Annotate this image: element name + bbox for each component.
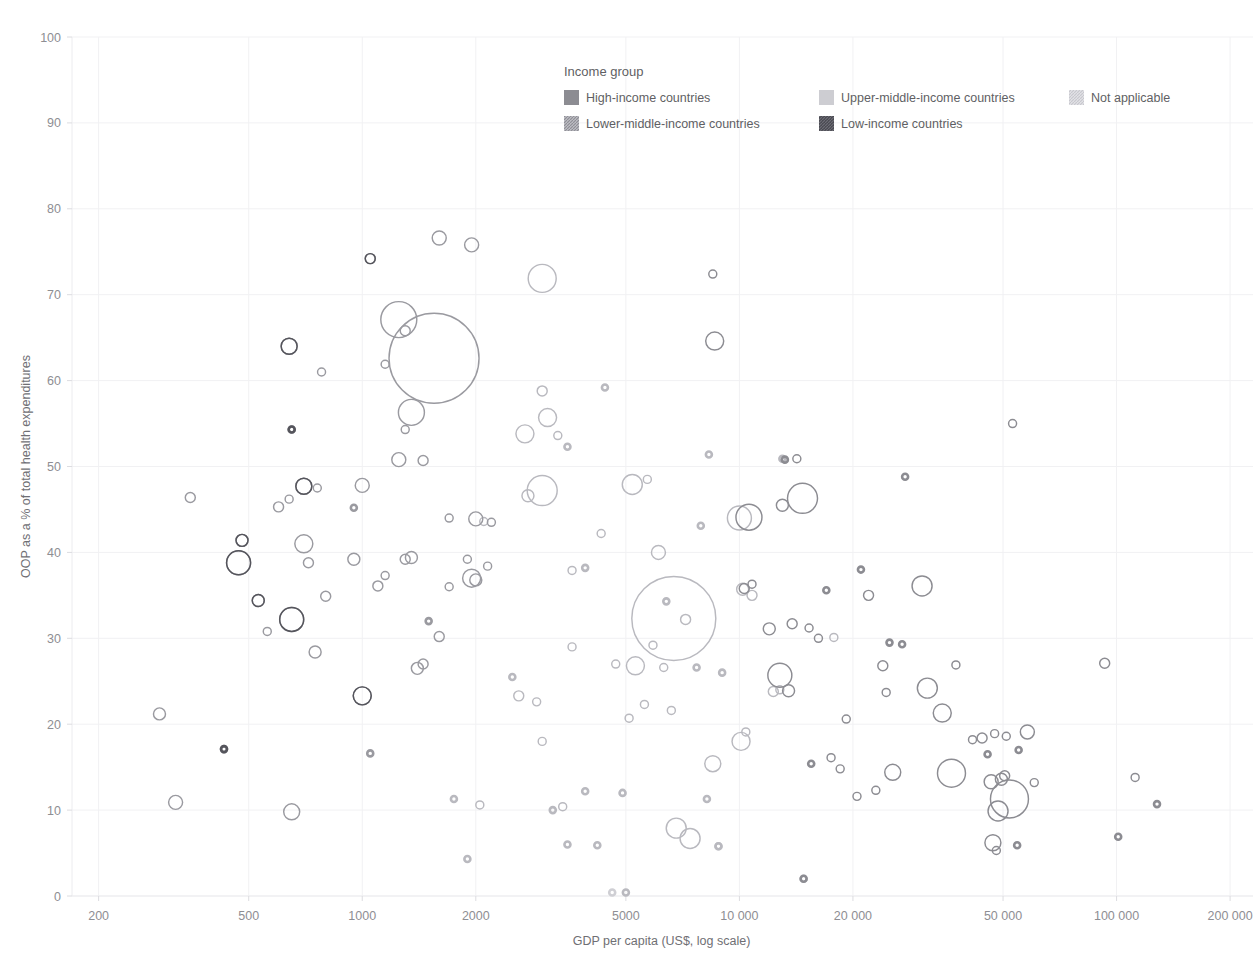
x-tick-label: 1000: [348, 909, 376, 923]
bubble: [252, 595, 264, 607]
x-tick-label: 200: [88, 909, 109, 923]
tick-labels: 0102030405060708090100200500100020005000…: [40, 31, 1253, 924]
legend-item-label: High-income countries: [586, 91, 710, 105]
bubble: [709, 270, 717, 278]
bubble: [313, 484, 321, 492]
bubble: [451, 796, 457, 802]
bubble: [426, 618, 432, 624]
bubble: [594, 842, 600, 848]
bubble: [303, 558, 313, 568]
bubble: [878, 661, 888, 671]
gridlines: [72, 37, 1253, 896]
bubble: [236, 534, 248, 546]
y-tick-label: 10: [47, 804, 61, 818]
x-tick-label: 500: [238, 909, 259, 923]
bubble: [667, 706, 675, 714]
series-high-income-countries: [706, 270, 1160, 882]
bubble: [681, 614, 691, 624]
scatter-chart: 0102030405060708090100200500100020005000…: [0, 0, 1259, 963]
y-tick-label: 70: [47, 288, 61, 302]
bubble: [582, 565, 588, 571]
x-tick-label: 10 000: [720, 909, 758, 923]
bubble: [1014, 842, 1020, 848]
axis-titles: GDP per capita (US$, log scale)OOP as a …: [19, 355, 750, 948]
bubble: [787, 619, 797, 629]
bubble: [309, 646, 321, 658]
bubble: [221, 746, 227, 752]
y-axis-title: OOP as a % of total health expenditures: [19, 355, 33, 578]
legend-item[interactable]: Lower-middle-income countries: [564, 116, 760, 131]
bubble: [985, 751, 991, 757]
bubble: [864, 590, 874, 600]
bubble: [559, 803, 567, 811]
bubble: [564, 841, 570, 847]
bubble: [568, 643, 576, 651]
legend-item-label: Not applicable: [1091, 91, 1170, 105]
legend-swatch: [819, 90, 834, 105]
y-tick-label: 40: [47, 546, 61, 560]
bubble: [660, 664, 668, 672]
legend: Income groupHigh-income countriesUpper-m…: [564, 64, 1170, 131]
axes: [67, 37, 1253, 901]
bubble: [445, 583, 453, 591]
bubble: [169, 795, 183, 809]
legend-item[interactable]: Not applicable: [1069, 90, 1170, 105]
bubble: [321, 591, 331, 601]
bubble: [609, 890, 615, 896]
bubble: [666, 818, 686, 838]
legend-item[interactable]: High-income countries: [564, 90, 710, 105]
bubble: [1020, 725, 1034, 739]
bubble: [365, 254, 375, 264]
series-upper-middle-income-countries: [451, 264, 838, 895]
bubble: [285, 495, 293, 503]
bubble: [969, 736, 977, 744]
bubble: [381, 572, 389, 580]
bubble: [793, 455, 801, 463]
bubble: [373, 581, 383, 591]
bubble: [463, 555, 471, 563]
bubble: [554, 432, 562, 440]
bubble: [622, 475, 642, 495]
bubble: [1115, 834, 1121, 840]
bubble: [612, 660, 620, 668]
legend-item-label: Low-income countries: [841, 117, 963, 131]
bubble: [538, 737, 546, 745]
bubble: [719, 670, 725, 676]
legend-item[interactable]: Low-income countries: [819, 116, 963, 131]
bubble: [537, 386, 547, 396]
bubble: [281, 338, 297, 354]
bubble: [885, 764, 901, 780]
bubble: [464, 856, 470, 862]
legend-item[interactable]: Upper-middle-income countries: [819, 90, 1015, 105]
bubble: [1016, 747, 1022, 753]
bubble: [185, 492, 195, 502]
bubble: [295, 535, 313, 553]
bubble: [392, 453, 406, 467]
x-tick-label: 2000: [462, 909, 490, 923]
bottom-cropped-text: [0, 949, 1259, 963]
bubble: [434, 632, 444, 642]
bubble: [296, 478, 312, 494]
bubble: [917, 678, 937, 698]
bubble: [937, 759, 965, 787]
y-tick-label: 20: [47, 718, 61, 732]
legend-swatch: [1069, 90, 1084, 105]
bubble: [988, 801, 1008, 821]
bubble: [842, 715, 850, 723]
bubble: [830, 633, 838, 641]
bubble: [514, 691, 524, 701]
bubble: [484, 562, 492, 570]
bubble: [632, 577, 716, 661]
bubble: [539, 409, 557, 427]
bubble: [836, 765, 844, 773]
bubble: [808, 761, 814, 767]
series-lower-middle-income-countries: [153, 231, 495, 820]
bubble: [776, 499, 788, 511]
legend-swatch: [564, 116, 579, 131]
top-cropped-text: [0, 0, 1259, 6]
bubble: [706, 332, 724, 350]
bubble: [748, 580, 756, 588]
bubble: [952, 661, 960, 669]
bubble: [153, 708, 165, 720]
y-tick-label: 80: [47, 202, 61, 216]
